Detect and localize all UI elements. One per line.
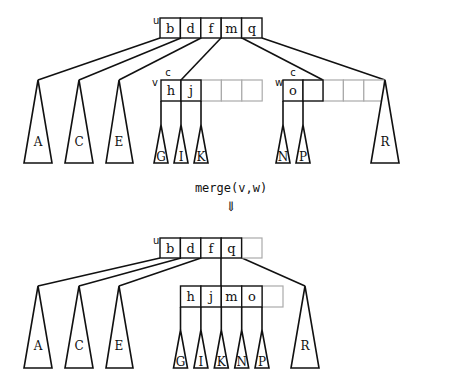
btree-merge-diagram: u b d f m q A C E v c ¸ bbox=[0, 0, 462, 383]
svg-text:C: C bbox=[74, 339, 83, 353]
svg-text:N: N bbox=[236, 355, 247, 369]
node-v: v c ¸ h j bbox=[152, 67, 262, 125]
subtree-C-after: C bbox=[65, 286, 93, 368]
subtree-P-after: P bbox=[255, 330, 269, 369]
svg-text:b: b bbox=[166, 241, 174, 256]
svg-text:A: A bbox=[33, 339, 43, 353]
key-m: m bbox=[225, 21, 237, 36]
subtree-K-after: K bbox=[214, 330, 228, 369]
before-tree: u b d f m q A C E v c ¸ bbox=[24, 15, 399, 164]
svg-text:P: P bbox=[258, 355, 266, 369]
svg-text:N: N bbox=[278, 150, 289, 164]
subtree-N-after: N bbox=[235, 330, 249, 369]
root-edges bbox=[38, 38, 385, 80]
subtree-K: K bbox=[194, 125, 208, 164]
node-label-u: u bbox=[153, 15, 159, 26]
root-edges-after bbox=[38, 258, 305, 286]
root-node-u-after: u b d f q bbox=[153, 235, 262, 258]
subtree-N: N bbox=[276, 125, 290, 164]
svg-text:C: C bbox=[74, 135, 83, 149]
svg-text:I: I bbox=[199, 355, 204, 369]
svg-text:R: R bbox=[380, 135, 390, 149]
key-o: o bbox=[289, 83, 297, 98]
node-w: w c ¸ o bbox=[275, 67, 384, 125]
subtree-C: C bbox=[65, 80, 93, 163]
subtree-A: A bbox=[24, 80, 52, 163]
svg-text:G: G bbox=[156, 150, 166, 164]
merge-operation: merge(v,w) ⇓ bbox=[195, 181, 267, 214]
subtree-E-after: E bbox=[106, 286, 133, 368]
down-arrow-icon: ⇓ bbox=[226, 199, 237, 214]
subtree-P: P bbox=[296, 125, 310, 164]
subtree-I-after: I bbox=[194, 330, 208, 369]
svg-text:m: m bbox=[225, 289, 237, 304]
svg-text:I: I bbox=[179, 150, 184, 164]
node-label-v: v bbox=[152, 77, 158, 88]
key-b: b bbox=[166, 21, 174, 36]
after-tree: u b d f q A C E h bbox=[24, 235, 319, 369]
svg-text:K: K bbox=[197, 150, 207, 164]
svg-text:K: K bbox=[217, 355, 227, 369]
svg-text:q: q bbox=[227, 241, 235, 256]
svg-text:E: E bbox=[115, 135, 124, 149]
svg-text:h: h bbox=[187, 289, 196, 304]
svg-text:P: P bbox=[299, 150, 307, 164]
root-node-u: u b d f m q bbox=[153, 15, 262, 38]
subtree-G-after: G bbox=[174, 330, 188, 369]
merged-node: h j m o bbox=[181, 286, 284, 330]
key-d: d bbox=[186, 21, 194, 36]
svg-text:A: A bbox=[33, 135, 43, 149]
svg-text:E: E bbox=[115, 339, 124, 353]
subtree-I: I bbox=[174, 125, 188, 164]
operation-label: merge(v,w) bbox=[195, 181, 267, 195]
subtree-E: E bbox=[106, 80, 133, 163]
subtree-R-after: R bbox=[291, 286, 319, 368]
subtree-G: G bbox=[154, 125, 168, 164]
node-label-w: w bbox=[275, 77, 283, 88]
svg-text:o: o bbox=[248, 289, 256, 304]
svg-text:R: R bbox=[300, 339, 310, 353]
svg-text:G: G bbox=[176, 355, 186, 369]
key-q: q bbox=[248, 21, 256, 36]
subtree-A-after: A bbox=[24, 286, 52, 368]
svg-text:d: d bbox=[186, 241, 194, 256]
node-label-u-after: u bbox=[153, 235, 159, 246]
key-h: h bbox=[167, 83, 176, 98]
